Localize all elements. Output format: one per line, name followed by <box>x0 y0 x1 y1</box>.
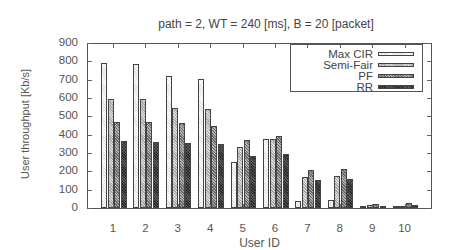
x-tick-mark <box>405 204 406 208</box>
bar-rr-user-5 <box>250 156 256 208</box>
x-tick-mark <box>210 44 211 48</box>
bar-semi-fair-user-4 <box>205 109 211 208</box>
bar-pf-user-6 <box>276 136 282 208</box>
x-tick-mark <box>178 204 179 208</box>
y-tick-mark <box>427 135 431 136</box>
bar-pf-user-3 <box>179 123 185 208</box>
bar-max-cir-user-6 <box>263 139 269 208</box>
y-tick-mark <box>88 135 92 136</box>
bar-max-cir-user-4 <box>198 79 204 208</box>
legend-swatch-icon <box>378 74 414 78</box>
bar-semi-fair-user-2 <box>140 99 146 208</box>
x-tick-label: 8 <box>325 222 355 234</box>
y-tick-mark <box>88 98 92 99</box>
bar-semi-fair-user-6 <box>270 139 276 208</box>
bar-rr-user-2 <box>153 142 159 208</box>
x-tick-label: 7 <box>292 222 322 234</box>
y-tick-mark <box>427 43 431 44</box>
x-tick-mark <box>243 44 244 48</box>
y-tick-mark <box>427 171 431 172</box>
x-tick-mark <box>178 44 179 48</box>
bar-pf-user-9 <box>373 204 379 208</box>
x-tick-mark <box>275 204 276 208</box>
legend-swatch-icon <box>378 63 414 67</box>
x-tick-mark <box>113 44 114 48</box>
y-tick-mark <box>88 153 92 154</box>
x-tick-mark <box>210 204 211 208</box>
x-tick-label: 9 <box>357 222 387 234</box>
x-tick-mark <box>275 44 276 48</box>
x-tick-label: 3 <box>163 222 193 234</box>
y-tick-mark <box>88 43 92 44</box>
x-tick-label: 10 <box>390 222 420 234</box>
y-tick-mark <box>427 80 431 81</box>
y-tick-label: 500 <box>30 109 78 121</box>
y-tick-mark <box>427 153 431 154</box>
y-tick-label: 800 <box>30 54 78 66</box>
chart-title: path = 2, WT = 240 [ms], B = 20 [packet] <box>0 17 452 31</box>
y-tick-label: 300 <box>30 146 78 158</box>
y-tick-mark <box>427 190 431 191</box>
bar-pf-user-8 <box>341 169 347 208</box>
x-tick-label: 1 <box>98 222 128 234</box>
y-tick-mark <box>427 61 431 62</box>
y-tick-label: 900 <box>30 36 78 48</box>
y-tick-mark <box>88 80 92 81</box>
bar-pf-user-4 <box>211 126 217 208</box>
bar-pf-user-5 <box>244 140 250 208</box>
bar-max-cir-user-3 <box>166 76 172 208</box>
y-tick-mark <box>88 61 92 62</box>
x-tick-mark <box>372 44 373 48</box>
y-tick-mark <box>427 98 431 99</box>
legend-item: RR <box>291 81 422 93</box>
y-tick-mark <box>427 208 431 209</box>
bar-rr-user-8 <box>347 179 353 208</box>
y-tick-label: 400 <box>30 128 78 140</box>
bar-rr-user-3 <box>185 143 191 208</box>
bar-max-cir-user-9 <box>360 206 366 208</box>
bar-max-cir-user-7 <box>295 201 301 208</box>
x-tick-mark <box>372 204 373 208</box>
x-tick-mark <box>145 204 146 208</box>
bar-max-cir-user-8 <box>328 200 334 208</box>
plot-area: Max CIRSemi-FairPFRR <box>87 43 432 209</box>
bar-max-cir-user-5 <box>231 162 237 208</box>
legend-label: RR <box>356 81 373 93</box>
bar-pf-user-7 <box>308 170 314 209</box>
bar-max-cir-user-2 <box>133 64 139 208</box>
bar-rr-user-6 <box>283 154 289 208</box>
x-tick-mark <box>307 44 308 48</box>
bar-rr-user-1 <box>121 141 127 208</box>
y-tick-mark <box>88 190 92 191</box>
bar-max-cir-user-1 <box>101 63 107 208</box>
y-tick-mark <box>88 171 92 172</box>
bar-pf-user-2 <box>146 122 152 208</box>
y-tick-label: 700 <box>30 73 78 85</box>
x-tick-mark <box>340 44 341 48</box>
bar-max-cir-user-10 <box>393 206 399 208</box>
bar-rr-user-4 <box>218 144 224 208</box>
y-tick-mark <box>88 208 92 209</box>
x-tick-mark <box>405 44 406 48</box>
y-tick-label: 0 <box>30 201 78 213</box>
bar-rr-user-7 <box>315 180 321 208</box>
x-tick-mark <box>145 44 146 48</box>
x-tick-mark <box>307 204 308 208</box>
y-tick-label: 200 <box>30 164 78 176</box>
x-tick-label: 5 <box>228 222 258 234</box>
legend-swatch-icon <box>378 85 414 89</box>
y-tick-label: 600 <box>30 91 78 103</box>
legend: Max CIRSemi-FairPFRR <box>290 44 423 92</box>
x-tick-label: 4 <box>195 222 225 234</box>
bar-semi-fair-user-1 <box>108 99 114 208</box>
x-tick-mark <box>243 204 244 208</box>
bar-rr-user-10 <box>412 205 418 208</box>
x-tick-label: 6 <box>260 222 290 234</box>
x-tick-label: 2 <box>130 222 160 234</box>
bar-pf-user-1 <box>114 122 120 208</box>
legend-swatch-icon <box>378 52 414 56</box>
y-tick-label: 100 <box>30 183 78 195</box>
x-tick-mark <box>340 204 341 208</box>
x-axis-label: User ID <box>87 236 432 250</box>
bar-semi-fair-user-3 <box>172 108 178 208</box>
